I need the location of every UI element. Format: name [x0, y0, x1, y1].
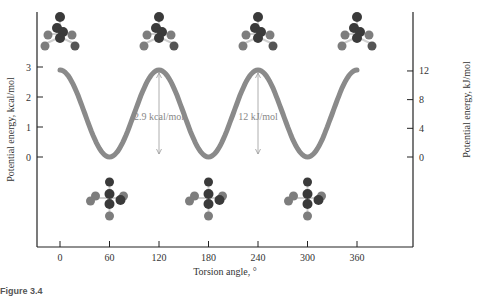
- atom: [105, 199, 115, 209]
- y-left-title: Potential energy, kcal/mol: [5, 77, 16, 182]
- atom: [303, 212, 312, 221]
- y-right-tick-label: 8: [419, 94, 424, 105]
- x-tick-label: 0: [58, 252, 63, 263]
- x-tick-label: 240: [251, 252, 266, 263]
- atom: [341, 31, 350, 40]
- x-tick-label: 120: [152, 252, 167, 263]
- barrier-label: 12 kJ/mol: [238, 111, 278, 122]
- atom: [204, 199, 214, 209]
- y-left-tick-label: 1: [26, 122, 31, 133]
- y-left-tick-label: 0: [26, 152, 31, 163]
- barrier-label: 2.9 kcal/mol: [134, 111, 184, 122]
- atom: [185, 197, 194, 206]
- atom: [204, 178, 213, 187]
- atom: [284, 197, 293, 206]
- y-right-tick-label: 12: [419, 65, 429, 76]
- atom: [303, 178, 312, 187]
- atom: [55, 33, 65, 43]
- figure-caption: Figure 3.4: [0, 286, 43, 296]
- atom: [338, 42, 347, 51]
- y-left-tick-label: 3: [26, 62, 31, 73]
- atom: [215, 195, 225, 205]
- x-tick-label: 360: [350, 252, 365, 263]
- x-tick-label: 60: [105, 252, 115, 263]
- atom: [303, 199, 313, 209]
- atom: [253, 33, 263, 43]
- atom: [116, 195, 126, 205]
- atom: [105, 212, 114, 221]
- atom: [154, 12, 164, 22]
- y-right-tick-label: 0: [419, 152, 424, 163]
- atom: [253, 12, 263, 22]
- atom: [352, 12, 362, 22]
- energy-curve: [60, 70, 357, 157]
- x-title: Torsion angle, °: [193, 266, 257, 277]
- atom: [269, 42, 278, 51]
- atom: [71, 42, 80, 51]
- atom: [365, 31, 374, 40]
- atom: [44, 31, 53, 40]
- y-left-tick-label: 2: [26, 92, 31, 103]
- atom: [167, 31, 176, 40]
- atom: [143, 31, 152, 40]
- atom: [68, 31, 77, 40]
- atom: [239, 42, 248, 51]
- atom: [368, 42, 377, 51]
- atom: [204, 212, 213, 221]
- atom: [86, 197, 95, 206]
- atom: [204, 189, 214, 199]
- atom: [352, 33, 362, 43]
- atom: [242, 31, 251, 40]
- y-right-title: Potential energy, kJ/mol: [461, 61, 472, 158]
- torsion-energy-chart: 060120180240300360012304812Potential ene…: [0, 0, 480, 296]
- atom: [314, 195, 324, 205]
- atom: [55, 12, 65, 22]
- atom: [266, 31, 275, 40]
- y-right-tick-label: 4: [419, 123, 424, 134]
- atom: [105, 189, 115, 199]
- x-tick-label: 180: [201, 252, 216, 263]
- atom: [105, 178, 114, 187]
- atom: [303, 189, 313, 199]
- atom: [170, 42, 179, 51]
- atom: [154, 33, 164, 43]
- atom: [41, 42, 50, 51]
- atom: [140, 42, 149, 51]
- x-tick-label: 300: [300, 252, 315, 263]
